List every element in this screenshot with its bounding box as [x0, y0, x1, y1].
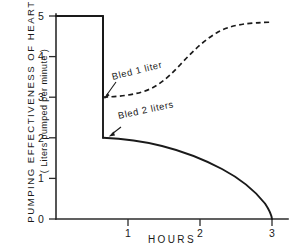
y-tick-label-5: 5 — [38, 10, 44, 22]
y-tick-label-1: 1 — [38, 172, 44, 184]
x-tick-label-3: 3 — [269, 227, 275, 239]
y-tick-label-2: 2 — [38, 132, 44, 144]
baseline-plateau-path — [56, 16, 103, 138]
bled-2-liters-arrow — [109, 127, 121, 137]
series-bled-1-liter-curve — [103, 22, 272, 97]
x-tick-label-2: 2 — [197, 227, 203, 239]
x-tick-label-1: 1 — [125, 227, 131, 239]
y-axis-ticks — [49, 16, 56, 219]
chart-plot-area: 0 1 2 3 4 5 1 2 3 HOURS — [0, 0, 300, 245]
y-tick-label-4: 4 — [38, 50, 44, 62]
chart-figure: 0 1 2 3 4 5 1 2 3 HOURS — [0, 0, 300, 245]
series-bled-2-liters-curve — [103, 138, 272, 219]
y-tick-label-0: 0 — [38, 213, 44, 225]
x-axis-ticks — [128, 219, 272, 226]
x-axis-title: HOURS — [148, 234, 196, 245]
y-tick-label-3: 3 — [38, 91, 44, 103]
